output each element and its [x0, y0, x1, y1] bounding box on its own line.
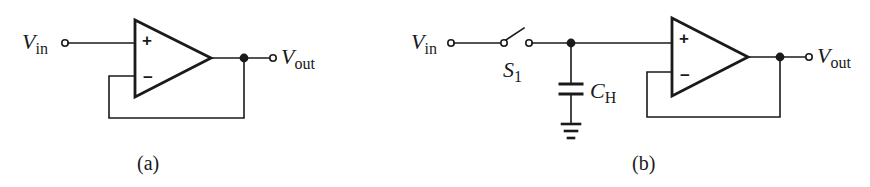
vin-symbol-a: V [22, 29, 35, 54]
vin-symbol-b: V [411, 29, 424, 54]
switch-label-s1: S1 [503, 59, 522, 81]
ground-icon [562, 124, 580, 138]
vout-symbol-a: V [281, 44, 294, 69]
vin-label-b: Vin [411, 31, 437, 53]
capacitor-label-ch: CH [590, 80, 616, 102]
caption-a: (a) [137, 153, 159, 173]
plus-label-a: + [142, 32, 152, 49]
circuit-figure: Vin + − Vout (a) Vin S1 CH + − Vout (b) [0, 0, 870, 187]
vin-subscript-a: in [35, 40, 47, 57]
vin-label-a: Vin [22, 31, 48, 53]
vout-subscript-a: out [294, 55, 314, 72]
minus-label-a: − [143, 69, 153, 86]
vout-label-a: Vout [281, 46, 315, 68]
vout-subscript-b: out [830, 54, 850, 71]
vout-label-b: Vout [817, 45, 851, 67]
schematic-drawing [0, 0, 870, 187]
vin-subscript-b: in [424, 40, 436, 57]
caption-b: (b) [632, 153, 655, 173]
capacitor-subscript: H [605, 89, 617, 106]
capacitor-symbol: C [590, 78, 605, 103]
vout-symbol-b: V [817, 43, 830, 68]
hold-capacitor [560, 43, 582, 123]
plus-label-b: + [679, 30, 689, 47]
vout-terminal-a [270, 55, 276, 61]
feedback-wire-b [647, 57, 780, 117]
switch-s1 [501, 28, 532, 46]
minus-label-b: − [680, 67, 690, 84]
switch-subscript: 1 [514, 68, 522, 85]
panel-a-circuit [62, 20, 276, 118]
feedback-wire-a [109, 58, 244, 118]
switch-symbol: S [503, 57, 514, 82]
vout-terminal-b [806, 54, 812, 60]
